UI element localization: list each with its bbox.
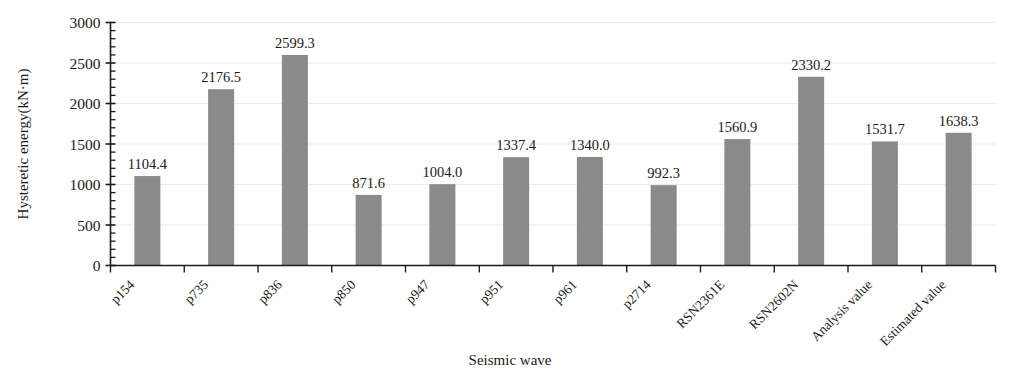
- bar-value-label: 2176.5: [201, 69, 241, 85]
- bar: [208, 89, 234, 265]
- y-axis-group: [106, 23, 116, 266]
- chart-canvas: 050010001500200025003000 p154p735p836p85…: [0, 0, 1023, 390]
- bars-group: [134, 55, 971, 266]
- x-category-label: p836: [255, 277, 285, 307]
- y-tick-labels-group: 050010001500200025003000: [70, 14, 101, 274]
- bar: [282, 55, 308, 266]
- x-category-labels-group: p154p735p836p850p947p951p961p2714RSN2361…: [108, 277, 949, 349]
- y-tick-label: 500: [77, 217, 101, 234]
- bar-value-label: 1104.4: [128, 156, 168, 172]
- x-category-label: p951: [477, 277, 507, 307]
- bar-value-label: 1560.9: [717, 119, 757, 135]
- bar-value-label: 1340.0: [570, 137, 610, 153]
- bar: [503, 157, 529, 265]
- x-category-label: p2714: [619, 277, 654, 312]
- x-category-label: p961: [550, 277, 580, 307]
- bar-value-label: 992.3: [647, 165, 680, 181]
- bar-value-label: 2599.3: [275, 35, 315, 51]
- bar: [577, 157, 603, 266]
- bar: [724, 139, 750, 265]
- bar: [946, 133, 972, 266]
- bar: [798, 77, 824, 266]
- bar-value-label: 1638.3: [939, 113, 979, 129]
- x-axis-group: [111, 266, 996, 273]
- bar: [651, 185, 677, 265]
- bar-value-label: 871.6: [352, 175, 385, 191]
- bar-value-labels-group: 1104.42176.52599.3871.61004.01337.41340.…: [128, 35, 979, 191]
- y-tick-label: 0: [93, 257, 101, 274]
- bar: [356, 195, 382, 266]
- bar-value-label: 1004.0: [422, 164, 462, 180]
- x-category-label: RSN2602N: [746, 277, 801, 332]
- x-category-label: Analysis value: [808, 277, 875, 344]
- bar-value-label: 1337.4: [496, 137, 537, 153]
- y-tick-label: 3000: [70, 14, 101, 31]
- x-category-label: p735: [182, 277, 212, 307]
- x-axis-title: Seismic wave: [469, 352, 552, 368]
- y-axis-title: Hysteretic energy(kN·m): [15, 69, 32, 220]
- bar-value-label: 2330.2: [791, 57, 831, 73]
- gridlines-group: [111, 23, 996, 226]
- y-tick-label: 1500: [70, 136, 101, 153]
- y-tick-label: 2000: [70, 95, 101, 112]
- bar: [134, 176, 160, 265]
- x-category-label: p154: [108, 277, 138, 307]
- y-tick-label: 1000: [70, 176, 101, 193]
- hysteretic-energy-bar-chart: 050010001500200025003000 p154p735p836p85…: [0, 0, 1023, 390]
- bar: [429, 184, 455, 265]
- bar-value-label: 1531.7: [865, 121, 905, 137]
- x-category-label: p947: [403, 277, 433, 307]
- bar: [872, 141, 898, 265]
- x-category-label: RSN2361E: [673, 277, 727, 331]
- x-category-label: p850: [329, 277, 359, 307]
- y-tick-label: 2500: [70, 55, 101, 72]
- x-category-label: Estimated value: [877, 277, 949, 349]
